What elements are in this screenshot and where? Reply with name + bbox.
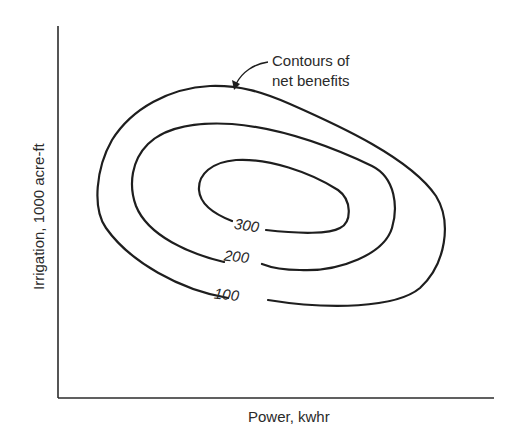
contour-label-300: 300: [233, 215, 261, 235]
contour-label-100: 100: [213, 284, 240, 304]
annotation-line-2: net benefits: [272, 72, 350, 89]
y-axis-label: Irrigation, 1000 acre-ft: [30, 142, 47, 290]
annotation-line-1: Contours of: [272, 52, 350, 69]
contour-300: [199, 160, 349, 233]
x-axis-label: Power, kwhr: [248, 408, 330, 425]
contour-label-200: 200: [222, 246, 250, 266]
annotation-leader: [236, 62, 268, 84]
contour-200: [132, 124, 395, 271]
contour-diagram: 300 200 100 Contours of net benefits Pow…: [0, 0, 519, 445]
